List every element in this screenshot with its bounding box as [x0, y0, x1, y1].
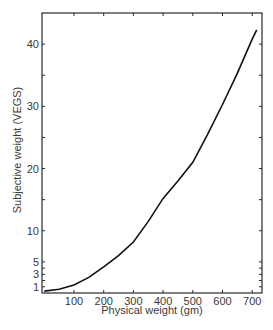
plot-frame — [42, 13, 262, 293]
data-curve — [44, 30, 256, 291]
y-tick-label: 3 — [33, 268, 39, 280]
axis-ticks — [42, 13, 262, 293]
y-tick-label: 5 — [33, 256, 39, 268]
tick-labels: 10020030040050060070013510203040 — [27, 38, 262, 307]
y-axis-title: Subjective weight (VEGS) — [11, 87, 23, 214]
x-tick-label: 100 — [65, 295, 83, 307]
y-tick-label: 20 — [27, 163, 39, 175]
y-tick-label: 1 — [33, 281, 39, 293]
y-tick-label: 10 — [27, 225, 39, 237]
x-tick-label: 700 — [243, 295, 261, 307]
x-tick-label: 600 — [213, 295, 231, 307]
y-tick-label: 40 — [27, 38, 39, 50]
y-tick-label: 30 — [27, 100, 39, 112]
chart: 10020030040050060070013510203040 Physica… — [0, 0, 273, 330]
x-axis-title: Physical weight (gm) — [101, 304, 202, 316]
